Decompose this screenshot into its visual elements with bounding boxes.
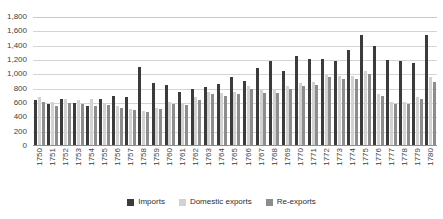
x-axis-tick-label: 1769 bbox=[283, 148, 292, 166]
bar-imports bbox=[86, 106, 89, 146]
x-axis-tick-label: 1766 bbox=[244, 148, 253, 166]
x-axis-tick-label: 1750 bbox=[35, 148, 44, 166]
bar-group bbox=[215, 17, 228, 146]
x-axis-tick: 1761 bbox=[176, 148, 189, 188]
x-axis-tick-label: 1751 bbox=[48, 148, 57, 166]
bar-group bbox=[124, 17, 137, 146]
bar-domestic bbox=[233, 92, 236, 146]
bar-imports bbox=[412, 63, 415, 146]
bar-reexports bbox=[81, 104, 84, 146]
x-axis-tick-label: 1763 bbox=[204, 148, 213, 166]
bar-domestic bbox=[51, 102, 54, 146]
x-axis-tick: 1765 bbox=[228, 148, 241, 188]
x-axis-tick-label: 1756 bbox=[113, 148, 122, 166]
bar-imports bbox=[230, 77, 233, 146]
bar-imports bbox=[282, 71, 285, 146]
bar-domestic bbox=[247, 86, 250, 146]
bar-imports bbox=[138, 67, 141, 146]
bar-domestic bbox=[351, 76, 354, 146]
bar-imports bbox=[295, 56, 298, 146]
x-axis-tick: 1778 bbox=[398, 148, 411, 188]
x-axis-tick: 1753 bbox=[72, 148, 85, 188]
bar-group bbox=[137, 17, 150, 146]
bar-group bbox=[202, 17, 215, 146]
bar-reexports bbox=[42, 102, 45, 146]
bar-domestic bbox=[38, 97, 41, 146]
x-axis-tick-label: 1774 bbox=[348, 148, 357, 166]
x-axis-tick: 1750 bbox=[33, 148, 46, 188]
bar-group bbox=[33, 17, 46, 146]
x-axis-tick-label: 1775 bbox=[361, 148, 370, 166]
bar-domestic bbox=[325, 74, 328, 146]
x-axis-tick-label: 1753 bbox=[74, 148, 83, 166]
x-axis-tick: 1752 bbox=[59, 148, 72, 188]
bar-group bbox=[46, 17, 59, 146]
bar-group bbox=[150, 17, 163, 146]
bar-reexports bbox=[198, 100, 201, 146]
bar-imports bbox=[178, 92, 181, 146]
bar-group bbox=[346, 17, 359, 146]
bar-domestic bbox=[181, 103, 184, 146]
y-axis-tick-label: 800 bbox=[14, 85, 27, 93]
bar-group bbox=[228, 17, 241, 146]
bar-reexports bbox=[302, 86, 305, 146]
bar-domestic bbox=[103, 103, 106, 146]
x-axis-tick: 1755 bbox=[98, 148, 111, 188]
bar-group bbox=[59, 17, 72, 146]
bar-reexports bbox=[146, 112, 149, 146]
legend-swatch-icon bbox=[127, 199, 134, 206]
x-axis-tick: 1773 bbox=[333, 148, 346, 188]
x-axis-tick: 1768 bbox=[268, 148, 281, 188]
bar-reexports bbox=[120, 108, 123, 146]
legend-swatch-icon bbox=[266, 199, 273, 206]
legend-item-domestic[interactable]: Domestic exports bbox=[179, 198, 252, 206]
x-axis-tick: 1764 bbox=[215, 148, 228, 188]
bar-domestic bbox=[168, 102, 171, 146]
bar-imports bbox=[373, 46, 376, 146]
bar-imports bbox=[399, 61, 402, 146]
bar-group bbox=[85, 17, 98, 146]
x-axis-tick-label: 1759 bbox=[152, 148, 161, 166]
bar-reexports bbox=[420, 99, 423, 146]
x-axis-tick: 1771 bbox=[307, 148, 320, 188]
x-axis-tick: 1762 bbox=[189, 148, 202, 188]
x-axis-tick-label: 1765 bbox=[230, 148, 239, 166]
bar-group bbox=[281, 17, 294, 146]
bar-group bbox=[189, 17, 202, 146]
bar-imports bbox=[165, 85, 168, 146]
bar-domestic bbox=[220, 93, 223, 146]
bar-imports bbox=[269, 61, 272, 146]
bar-domestic bbox=[129, 109, 132, 146]
x-axis-tick: 1775 bbox=[359, 148, 372, 188]
bar-imports bbox=[243, 81, 246, 146]
bar-chart: 02004006008001,0001,2001,4001,6001,800 1… bbox=[0, 0, 443, 219]
x-axis-tick: 1772 bbox=[320, 148, 333, 188]
x-axis-tick-label: 1757 bbox=[126, 148, 135, 166]
x-axis-tick: 1757 bbox=[124, 148, 137, 188]
bar-domestic bbox=[155, 108, 158, 146]
x-axis-tick: 1770 bbox=[294, 148, 307, 188]
x-axis-tick-label: 1770 bbox=[296, 148, 305, 166]
bar-reexports bbox=[394, 104, 397, 146]
bar-reexports bbox=[381, 96, 384, 146]
x-axis-tick: 1780 bbox=[424, 148, 437, 188]
bar-reexports bbox=[289, 89, 292, 146]
bar-imports bbox=[60, 99, 63, 146]
legend-item-reexports[interactable]: Re-exports bbox=[266, 198, 316, 206]
x-axis-tick: 1767 bbox=[255, 148, 268, 188]
y-axis-tick-label: 1,800 bbox=[7, 13, 27, 21]
bar-reexports bbox=[328, 77, 331, 146]
legend-item-imports[interactable]: Imports bbox=[127, 198, 165, 206]
x-axis-tick: 1776 bbox=[372, 148, 385, 188]
x-axis-tick: 1763 bbox=[202, 148, 215, 188]
x-axis-tick: 1779 bbox=[411, 148, 424, 188]
bar-group bbox=[98, 17, 111, 146]
bar-reexports bbox=[224, 96, 227, 146]
x-axis-tick: 1760 bbox=[163, 148, 176, 188]
x-axis-tick-label: 1760 bbox=[165, 148, 174, 166]
bar-domestic bbox=[377, 94, 380, 146]
x-axis-tick-label: 1758 bbox=[139, 148, 148, 166]
bar-group bbox=[398, 17, 411, 146]
bar-imports bbox=[152, 83, 155, 146]
x-axis-tick-label: 1779 bbox=[413, 148, 422, 166]
